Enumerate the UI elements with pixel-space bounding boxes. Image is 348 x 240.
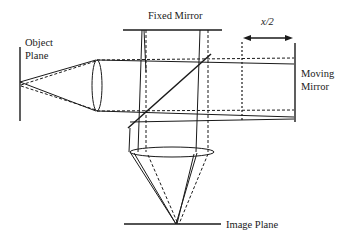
- object-plane-label-line2: Plane: [25, 50, 49, 61]
- output-cone-rays: [130, 152, 208, 224]
- interferometer-diagram: Fixed Mirror Object Plane Moving Mirror …: [0, 0, 348, 240]
- displacement-label: x/2: [260, 16, 275, 27]
- moving-mirror-label-line2: Mirror: [301, 81, 329, 92]
- fixed-mirror-label: Fixed Mirror: [148, 10, 203, 21]
- object-plane-label-line1: Object: [25, 37, 53, 48]
- input-cone-rays: [20, 60, 96, 111]
- displacement-arrow-icon: [243, 35, 293, 41]
- collimating-lens: [92, 60, 102, 111]
- image-plane-label: Image Plane: [226, 219, 279, 230]
- moving-mirror-label-line1: Moving: [301, 68, 335, 79]
- focusing-lens: [130, 147, 214, 157]
